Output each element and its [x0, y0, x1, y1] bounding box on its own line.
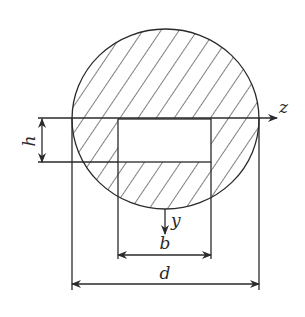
z-axis-label: z	[278, 97, 289, 117]
y-axis-label: y	[170, 210, 181, 230]
rectangular-cutout	[118, 119, 211, 162]
height-label: h	[19, 136, 39, 147]
width-label: b	[160, 233, 171, 253]
diameter-label: d	[160, 263, 171, 283]
cross-section-diagram: z y h b d	[0, 0, 305, 317]
